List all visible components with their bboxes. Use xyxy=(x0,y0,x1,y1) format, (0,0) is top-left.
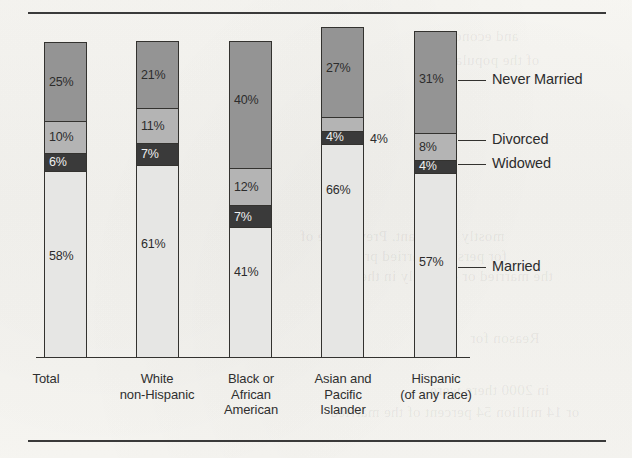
category-label-line: (of any race) xyxy=(380,387,492,403)
bar-segment-married[interactable]: 58% xyxy=(45,171,86,357)
top-rule xyxy=(28,12,606,14)
segment-value-label: 11% xyxy=(137,120,165,133)
stacked-bar-black-african-american[interactable]: 40% 12% 7% 41% xyxy=(229,41,272,358)
stacked-bar-total[interactable]: 25% 10% 6% 58% xyxy=(44,42,87,358)
bleed-text: Reason for xyxy=(470,330,539,347)
bar-segment-widowed[interactable]: 4% xyxy=(415,160,456,173)
segment-value-label: 27% xyxy=(322,62,350,75)
segment-value-label: 4% xyxy=(415,160,437,173)
legend-leader-married xyxy=(458,267,486,268)
bar-segment-widowed[interactable]: 7% xyxy=(230,205,271,227)
bar-segment-married[interactable]: 61% xyxy=(137,165,178,357)
legend-label-divorced: Divorced xyxy=(492,131,548,147)
bar-segment-divorced[interactable]: 8% xyxy=(415,133,456,159)
bar-segment-never-married[interactable]: 31% xyxy=(415,32,456,133)
legend-leader-divorced xyxy=(458,140,486,141)
bar-segment-never-married[interactable]: 40% xyxy=(230,42,271,168)
legend-label-married: Married xyxy=(492,258,540,274)
bar-segment-married[interactable]: 57% xyxy=(415,173,456,357)
segment-value-label: 31% xyxy=(415,73,443,86)
category-label-hispanic: Hispanic (of any race) xyxy=(380,371,492,402)
bar-segment-widowed[interactable]: 6% xyxy=(45,153,86,172)
bar-segment-married[interactable]: 41% xyxy=(230,227,271,357)
category-label-total: Total xyxy=(0,371,102,387)
stacked-bar-asian-pacific-islander[interactable]: 27% 4% 66% xyxy=(321,27,364,358)
segment-value-label-divorced-outside: 4% xyxy=(370,132,388,146)
stacked-bar-white-non-hispanic[interactable]: 21% 11% 7% 61% xyxy=(136,41,179,358)
bar-segment-never-married[interactable]: 27% xyxy=(322,28,363,117)
category-label-line: Islander xyxy=(287,402,399,418)
segment-value-label: 21% xyxy=(137,69,165,82)
bar-segment-divorced[interactable]: 10% xyxy=(45,121,86,152)
bar-segment-divorced[interactable] xyxy=(322,117,363,130)
legend-label-never-married: Never Married xyxy=(492,71,583,87)
bar-segment-divorced[interactable]: 12% xyxy=(230,168,271,206)
segment-value-label: 6% xyxy=(45,156,67,169)
bar-segment-widowed[interactable]: 4% xyxy=(322,131,363,144)
bottom-rule xyxy=(28,440,606,442)
segment-value-label: 12% xyxy=(230,181,258,194)
bar-segment-married[interactable]: 66% xyxy=(322,144,363,357)
segment-value-label: 10% xyxy=(45,131,73,144)
segment-value-label: 7% xyxy=(137,148,159,161)
segment-value-label: 61% xyxy=(137,238,165,251)
segment-value-label: 8% xyxy=(415,141,437,154)
segment-value-label: 57% xyxy=(415,256,443,269)
bleed-text: of the popula xyxy=(455,52,539,69)
segment-value-label: 58% xyxy=(45,250,73,263)
legend-label-widowed: Widowed xyxy=(492,155,551,171)
legend-leader-never-married xyxy=(458,80,486,81)
category-label-line: Total xyxy=(0,371,102,387)
stacked-bar-hispanic[interactable]: 31% 8% 4% 57% xyxy=(414,31,457,358)
segment-value-label: 4% xyxy=(322,131,344,144)
bar-segment-widowed[interactable]: 7% xyxy=(137,143,178,165)
segment-value-label: 40% xyxy=(230,94,258,107)
segment-value-label: 25% xyxy=(45,76,73,89)
segment-value-label: 41% xyxy=(230,266,258,279)
category-label-line: Hispanic xyxy=(380,371,492,387)
legend-leader-widowed xyxy=(458,164,486,165)
bar-segment-divorced[interactable]: 11% xyxy=(137,108,178,143)
bar-segment-never-married[interactable]: 21% xyxy=(137,42,178,108)
figure-page: and economic of the popula mostly irrele… xyxy=(0,0,632,458)
segment-value-label: 66% xyxy=(322,184,350,197)
bar-segment-never-married[interactable]: 25% xyxy=(45,43,86,121)
segment-value-label: 7% xyxy=(230,211,252,224)
